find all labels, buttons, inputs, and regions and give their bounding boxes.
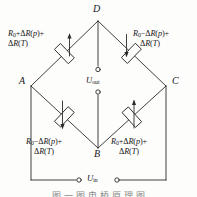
node-label-c: C xyxy=(172,75,179,86)
port-label-u-out: Uout xyxy=(86,76,100,86)
node-label-b: B xyxy=(94,148,100,159)
resistor-symbol-bottom-left xyxy=(55,107,74,127)
resistor-label-top-left-line1: R0+ΔR(p)+ xyxy=(8,29,44,38)
terminal-uin-right xyxy=(115,178,119,182)
resistor-label-bottom-left-line1: R0−ΔR(p)+ xyxy=(26,137,62,146)
figure-caption: 图 一 图 电 桥 原 理 图 xyxy=(0,189,197,197)
resistor-symbol-bottom-right xyxy=(122,107,141,127)
resistor-label-top-left: R0+ΔR(p)+ ΔR(T) xyxy=(8,29,44,48)
resistor-label-bottom-right: R0+ΔR(p)+ ΔR(T) xyxy=(111,137,147,156)
resistor-label-bottom-right-line1: R0+ΔR(p)+ xyxy=(111,137,147,146)
resistor-label-bottom-right-line2: ΔR(T) xyxy=(111,147,147,156)
resistor-label-top-right-line2: ΔR(T) xyxy=(133,39,169,48)
terminal-uout-bottom xyxy=(96,90,100,94)
resistor-label-bottom-left: R0−ΔR(p)+ ΔR(T) xyxy=(26,137,62,156)
node-label-a: A xyxy=(19,75,25,86)
figure-canvas: D A C B R0+ΔR(p)+ ΔR(T) R0−ΔR(p)+ ΔR(T) … xyxy=(0,0,197,197)
terminal-uout-top xyxy=(96,67,100,71)
resistor-label-top-right: R0−ΔR(p)+ ΔR(T) xyxy=(133,29,169,48)
resistor-label-top-left-line2: ΔR(T) xyxy=(8,39,44,48)
resistor-label-bottom-left-line2: ΔR(T) xyxy=(26,147,62,156)
port-label-u-in: Uin xyxy=(87,174,98,184)
terminal-uin-left xyxy=(77,178,81,182)
node-label-d: D xyxy=(93,3,100,14)
resistor-label-top-right-line1: R0−ΔR(p)+ xyxy=(133,29,169,38)
